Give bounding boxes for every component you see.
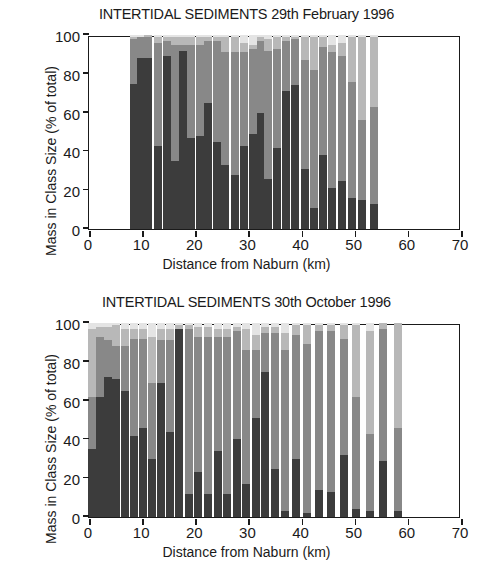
- bar: [130, 325, 138, 517]
- bar-segment: [358, 200, 366, 229]
- bar-segment: [264, 35, 272, 39]
- bar-segment: [233, 323, 241, 327]
- bar: [163, 37, 171, 229]
- bar-segment: [148, 459, 156, 517]
- bar: [96, 325, 104, 517]
- bar: [223, 325, 231, 517]
- x-axis-tick-labels-february: 010203040506070: [88, 236, 460, 256]
- x-axis-tick-label: 0: [68, 236, 108, 253]
- bar-segment: [358, 35, 366, 37]
- bar-segment: [303, 344, 311, 513]
- bar-segment: [310, 70, 318, 208]
- bar-segment: [370, 107, 378, 204]
- bar-segment: [221, 35, 229, 37]
- x-axis-tick-label: 30: [227, 236, 267, 253]
- x-axis-tick-label: 60: [387, 524, 427, 541]
- bar-segment: [394, 511, 402, 517]
- x-axis-tick-label: 70: [440, 524, 480, 541]
- chart-panel-october: INTERTIDAL SEDIMENTS 30th October 1996 M…: [0, 288, 493, 577]
- bar-segment: [338, 43, 346, 57]
- bar: [358, 37, 366, 229]
- y-axis-tick: [83, 515, 89, 517]
- bar-segment: [130, 339, 138, 436]
- bar-segment: [348, 37, 356, 82]
- bar-segment: [166, 340, 174, 431]
- bar: [249, 37, 257, 229]
- y-axis-tick-label: 100: [55, 316, 80, 333]
- bar-segment: [261, 372, 269, 518]
- bar: [352, 325, 360, 517]
- bar: [348, 37, 356, 229]
- bar-segment: [187, 138, 195, 229]
- bar-segment: [96, 327, 104, 337]
- x-axis-tick-label: 40: [281, 236, 321, 253]
- bar-segment: [264, 179, 272, 229]
- bar-segment: [315, 331, 323, 490]
- bar-segment: [242, 323, 250, 329]
- bar-segment: [338, 35, 346, 43]
- y-axis-tick: [83, 111, 89, 113]
- bar: [328, 37, 336, 229]
- bar-segment: [291, 85, 299, 229]
- bar-segment: [379, 323, 387, 329]
- bar: [310, 37, 318, 229]
- bar: [370, 37, 378, 229]
- bar-segment: [292, 323, 300, 325]
- bar: [185, 325, 193, 517]
- bar-segment: [273, 148, 281, 229]
- bar-segment: [154, 35, 162, 37]
- bar-segment: [166, 323, 174, 329]
- bar: [338, 37, 346, 229]
- bar: [221, 37, 229, 229]
- bar-segment: [273, 35, 281, 37]
- bar-segment: [352, 509, 360, 517]
- bar-segment: [185, 323, 193, 325]
- bar-segment: [315, 323, 323, 325]
- bar-segment: [196, 45, 204, 136]
- bar-segment: [104, 327, 112, 341]
- y-axis-tick-label: 80: [63, 66, 80, 83]
- bar-segment: [148, 383, 156, 459]
- bar-segment: [370, 37, 378, 107]
- bar: [139, 325, 147, 517]
- bar: [112, 325, 120, 517]
- bar: [214, 325, 222, 517]
- bar-segment: [282, 37, 290, 41]
- bar: [240, 37, 248, 229]
- bar-segment: [281, 350, 289, 511]
- bar-segment: [319, 37, 327, 47]
- bar: [281, 325, 289, 517]
- bar: [104, 325, 112, 517]
- bar-segment: [315, 325, 323, 331]
- bar: [187, 37, 195, 229]
- y-axis-tick-labels-october: 020406080100: [44, 324, 80, 518]
- bar-segment: [148, 337, 156, 384]
- bar-segment: [352, 323, 360, 325]
- bar-segment: [104, 377, 112, 517]
- bar-segment: [185, 329, 193, 494]
- y-axis-tick-label: 60: [63, 393, 80, 410]
- bar-segment: [214, 337, 222, 451]
- bar-segment: [303, 325, 311, 344]
- bar: [204, 325, 212, 517]
- bar-segment: [301, 60, 309, 169]
- bar-segment: [139, 428, 147, 517]
- y-axis-tick-label: 60: [63, 105, 80, 122]
- bar-segment: [223, 337, 231, 494]
- bar-segment: [163, 37, 171, 41]
- bar-segment: [221, 37, 229, 53]
- bar-segment: [327, 325, 335, 331]
- bar: [194, 325, 202, 517]
- bar-segment: [231, 35, 239, 37]
- bar-segment: [252, 418, 260, 517]
- bar: [292, 325, 300, 517]
- bar-segment: [214, 323, 222, 329]
- chart-title-october: INTERTIDAL SEDIMENTS 30th October 1996: [0, 294, 493, 310]
- bar-segment: [213, 37, 221, 41]
- x-axis-tick-label: 50: [334, 236, 374, 253]
- bar-segment: [358, 120, 366, 200]
- bar-segment: [179, 35, 187, 37]
- bar: [157, 325, 165, 517]
- x-axis-tick-label: 60: [387, 236, 427, 253]
- bar-segment: [166, 432, 174, 517]
